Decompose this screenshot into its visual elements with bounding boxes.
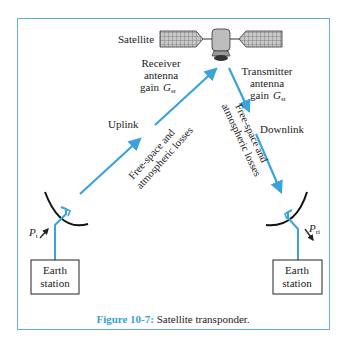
right-earth-station: Earth station <box>273 260 322 294</box>
downlink-label: Downlink <box>260 123 305 135</box>
receiver-label-2: antenna <box>144 69 178 81</box>
left-dish-antenna-icon <box>45 192 88 264</box>
left-power-label: Pt <box>28 226 38 240</box>
svg-text:Earth: Earth <box>43 264 67 276</box>
svg-text:station: station <box>282 277 312 289</box>
svg-text:Earth: Earth <box>285 264 309 276</box>
svg-text:station: station <box>40 277 70 289</box>
receiver-label-3: gainGsr <box>140 81 177 95</box>
satellite-label: Satellite <box>118 33 154 45</box>
figure-caption: Figure 10-7: Satellite transponder. <box>0 313 346 325</box>
figure-number: Figure 10-7: <box>96 313 154 325</box>
uplink-label: Uplink <box>108 118 139 130</box>
satellite-transponder-diagram: Satellite Receiver antenna gainGsr Trans… <box>0 0 346 354</box>
left-power-arrow-icon <box>40 229 48 238</box>
transmitter-label-1: Transmitter <box>242 65 293 77</box>
right-power-label: Pri <box>308 222 320 236</box>
right-dish-antenna-icon <box>266 192 307 264</box>
downlink-losses-label: Free-space and atmospheric losses <box>220 97 274 178</box>
left-earth-station: Earth station <box>31 260 79 294</box>
receiver-label-1: Receiver <box>141 57 180 69</box>
figure-caption-text: Satellite transponder. <box>154 313 250 325</box>
transmitter-label-3: gainGst <box>250 89 286 103</box>
transmitter-label-2: antenna <box>250 77 284 89</box>
